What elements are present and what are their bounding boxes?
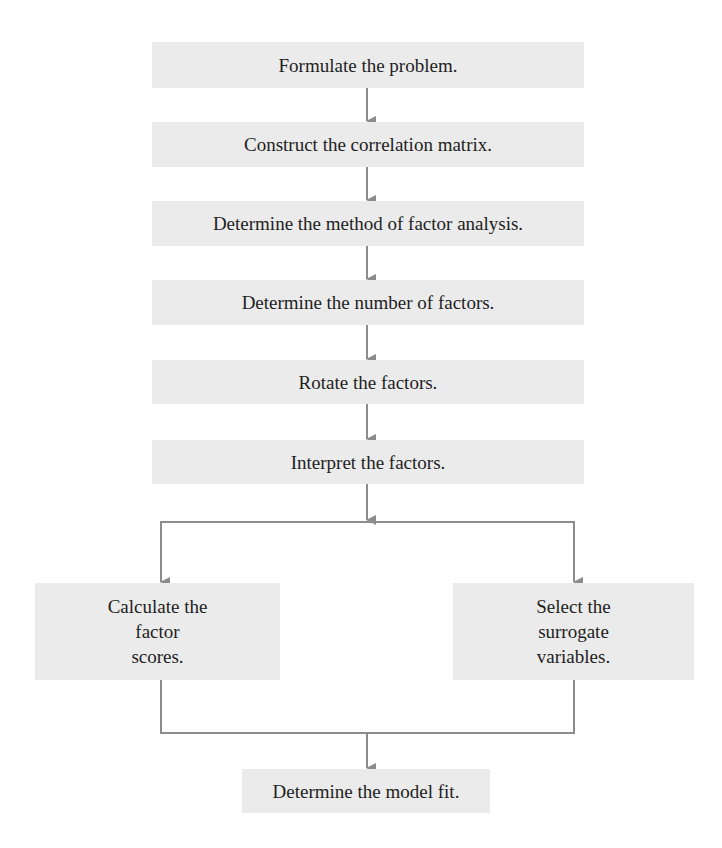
branch-label: Calculate the factor scores. [108, 594, 208, 669]
step-rotate-factors: Rotate the factors. [152, 360, 584, 404]
step-label: Determine the model fit. [273, 779, 460, 804]
step-determine-model-fit: Determine the model fit. [242, 769, 490, 813]
branch-split-line [161, 522, 574, 582]
branch-calculate-factor-scores: Calculate the factor scores. [35, 583, 280, 680]
flowchart: Formulate the problem. Construct the cor… [0, 0, 722, 848]
step-label: Determine the method of factor analysis. [213, 211, 523, 236]
step-construct-correlation-matrix: Construct the correlation matrix. [152, 122, 584, 167]
step-label: Interpret the factors. [291, 450, 446, 475]
branch-join-line [161, 680, 574, 733]
branch-label: Select the surrogate variables. [536, 594, 610, 669]
step-interpret-factors: Interpret the factors. [152, 440, 584, 484]
step-label: Determine the number of factors. [242, 290, 495, 315]
branch-select-surrogate-variables: Select the surrogate variables. [453, 583, 694, 680]
step-label: Formulate the problem. [279, 53, 458, 78]
step-determine-number-of-factors: Determine the number of factors. [152, 280, 584, 325]
step-formulate-problem: Formulate the problem. [152, 42, 584, 88]
step-determine-method: Determine the method of factor analysis. [152, 201, 584, 246]
step-label: Rotate the factors. [299, 370, 438, 395]
step-label: Construct the correlation matrix. [244, 132, 492, 157]
